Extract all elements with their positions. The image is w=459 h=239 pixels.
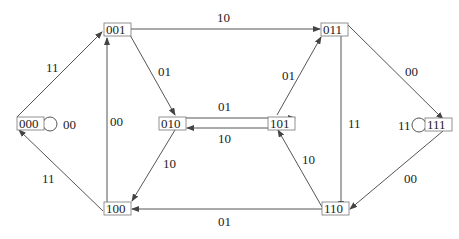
- node-110: 110: [322, 201, 349, 216]
- node-label-000: 000: [19, 116, 39, 131]
- node-011: 011: [321, 22, 348, 37]
- node-101: 101: [268, 116, 295, 131]
- edge-000-001: [17, 32, 102, 117]
- edge-label-100-000: 11: [42, 171, 55, 186]
- edge-label-001-010: 01: [158, 64, 171, 79]
- edge-011-111: [348, 25, 443, 119]
- edge-label-110-101: 10: [302, 152, 315, 167]
- edge-111-110: [350, 131, 443, 209]
- edge-label-011-110: 11: [348, 116, 361, 131]
- state-diagram: 11 10 01 00 11 01 10 10 01 00 11 10 00 0…: [0, 0, 459, 239]
- self-loop-111: [412, 118, 426, 132]
- edge-label-100-001: 00: [110, 114, 123, 129]
- node-000: 000: [17, 116, 44, 131]
- node-label-001: 001: [106, 22, 126, 37]
- edge-label-111-111: 11: [398, 118, 411, 133]
- node-label-010: 010: [161, 116, 181, 131]
- node-label-101: 101: [270, 116, 290, 131]
- edge-label-000-000: 00: [63, 117, 76, 132]
- edge-label-010-101: 01: [218, 99, 231, 114]
- edge-label-001-011: 10: [217, 10, 230, 25]
- node-label-110: 110: [324, 201, 343, 216]
- edge-label-011-111: 00: [405, 64, 418, 79]
- edge-label-111-110: 00: [404, 171, 417, 186]
- self-loop-000: [43, 117, 57, 131]
- node-111: 111: [425, 117, 452, 132]
- edge-label-010-100: 10: [163, 156, 176, 171]
- edge-label-101-010: 10: [218, 131, 231, 146]
- node-label-111: 111: [427, 117, 446, 132]
- edge-label-110-100: 01: [218, 214, 231, 229]
- node-label-011: 011: [323, 22, 342, 37]
- edge-100-000: [19, 130, 103, 211]
- edge-label-101-011: 01: [282, 68, 295, 83]
- edge-110-101: [278, 130, 322, 207]
- node-100: 100: [104, 201, 131, 216]
- edge-label-000-001: 11: [46, 60, 59, 75]
- node-label-100: 100: [106, 201, 126, 216]
- node-001: 001: [104, 22, 131, 37]
- node-010: 010: [159, 116, 186, 131]
